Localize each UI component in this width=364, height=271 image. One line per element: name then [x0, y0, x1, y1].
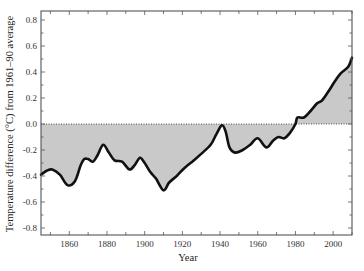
temperature-chart: 0.80.60.40.20.0-0.2-0.4-0.6-0.8 18601880…: [0, 0, 364, 271]
y-tick-label: 0.8: [26, 15, 38, 25]
x-axis-tick-labels: 18601880190019201940196019802000: [60, 239, 342, 249]
x-tick-label: 1900: [136, 239, 155, 249]
y-tick-label: -0.2: [23, 145, 37, 155]
x-tick-label: 2000: [324, 239, 343, 249]
y-tick-label: 0.6: [26, 41, 38, 51]
x-tick-label: 1940: [211, 239, 230, 249]
y-axis-label: Temperature difference (°C) from 1961–90…: [4, 15, 16, 232]
y-tick-label: 0.0: [26, 119, 38, 129]
y-axis-tick-labels: 0.80.60.40.20.0-0.2-0.4-0.6-0.8: [23, 15, 38, 233]
x-axis-label: Year: [178, 252, 198, 263]
y-tick-label: -0.6: [23, 197, 38, 207]
x-tick-label: 1880: [98, 239, 117, 249]
y-tick-label: 0.4: [26, 67, 38, 77]
x-tick-label: 1860: [60, 239, 79, 249]
x-tick-label: 1920: [173, 239, 192, 249]
x-tick-label: 1960: [249, 239, 268, 249]
y-tick-label: -0.8: [23, 223, 38, 233]
x-tick-label: 1980: [286, 239, 305, 249]
y-tick-label: 0.2: [26, 93, 37, 103]
y-tick-label: -0.4: [23, 171, 38, 181]
